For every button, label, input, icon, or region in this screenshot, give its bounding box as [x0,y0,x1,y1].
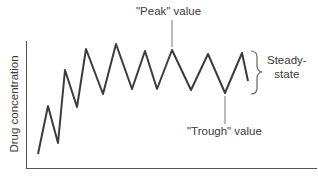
chart-canvas [0,0,318,178]
peak-label: "Peak" value [136,5,201,17]
steady-state-line2: state [267,67,307,81]
steady-state-label: Steady- state [267,53,307,81]
y-axis-label: Drug concentration [8,55,20,152]
trough-label: "Trough" value [187,125,262,137]
steady-state-brace-icon [251,51,262,94]
steady-state-line1: Steady- [267,53,307,67]
concentration-line [38,44,248,154]
